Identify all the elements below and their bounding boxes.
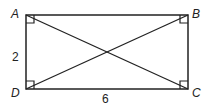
vertex-label-b: B	[192, 7, 200, 21]
vertex-label-c: C	[192, 86, 201, 100]
vertex-label-a: A	[10, 7, 19, 21]
rectangle-diagram: A B C D 2 6	[0, 0, 210, 108]
side-label-ad: 2	[12, 50, 19, 64]
side-label-dc: 6	[102, 92, 109, 106]
vertex-label-d: D	[11, 86, 20, 100]
